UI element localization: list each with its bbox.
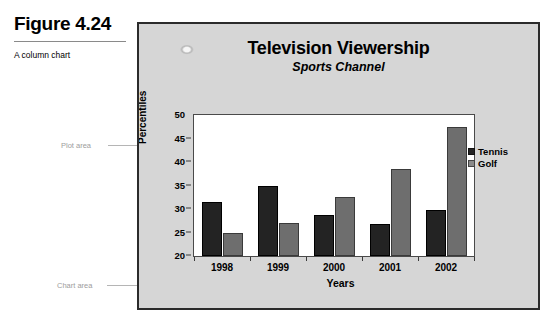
x-axis: 19981999200020012002 [193,260,475,276]
x-axis-tick-mark [194,257,195,261]
x-axis-tick-label: 2000 [323,262,345,273]
legend-item-golf[interactable]: Golf [468,158,508,169]
figure-caption: Figure 4.24 A column chart [14,14,126,60]
x-axis-tick-label: 2001 [379,262,401,273]
figure-number: Figure 4.24 [14,14,126,34]
legend-swatch-icon [468,148,475,155]
chart-title: Television Viewership [139,38,538,59]
callout-chart-area: Chart area [57,281,92,290]
y-axis-tick-mark [186,161,191,162]
plot-bars-container [194,115,474,256]
bar-tennis-1999[interactable] [258,186,278,257]
x-axis-tick-label: 2002 [435,262,457,273]
bar-tennis-1998[interactable] [202,202,222,256]
legend-item-tennis[interactable]: Tennis [468,146,508,157]
y-axis-tick-mark [186,208,191,209]
y-axis-tick-label: 40 [174,156,185,167]
chart-area[interactable]: Television Viewership Sports Channel Per… [137,22,540,310]
legend-label: Tennis [478,146,508,157]
x-axis-tick-mark [474,257,475,261]
y-axis-tick-mark [186,255,191,256]
bar-tennis-2002[interactable] [426,210,446,256]
x-axis-tick-label: 1999 [267,262,289,273]
x-axis-title: Years [139,277,540,289]
y-axis-tick-mark [186,231,191,232]
y-axis-tick-mark [186,184,191,185]
y-axis-tick-label: 35 [174,179,185,190]
bar-tennis-2000[interactable] [314,215,334,256]
y-axis: 20253035404550 [157,108,191,263]
y-axis-tick-mark [186,137,191,138]
legend-label: Golf [478,158,497,169]
x-axis-tick-mark [306,257,307,261]
legend-swatch-icon [468,160,475,167]
x-axis-tick-mark [362,257,363,261]
chart-subtitle: Sports Channel [139,60,538,74]
callout-plot-area: Plot area [61,141,91,150]
x-axis-tick-label: 1998 [211,262,233,273]
plot-area[interactable] [193,114,475,257]
y-axis-tick-label: 45 [174,132,185,143]
caption-divider [14,41,126,42]
bar-golf-1999[interactable] [279,223,299,256]
figure-description: A column chart [14,50,126,60]
y-axis-tick-label: 50 [174,109,185,120]
bar-golf-2000[interactable] [335,197,355,256]
y-axis-tick-label: 30 [174,203,185,214]
x-axis-tick-mark [418,257,419,261]
bar-tennis-2001[interactable] [370,224,390,256]
chart-legend[interactable]: TennisGolf [464,142,513,174]
y-axis-title: Percentiles [137,91,148,144]
bar-golf-2001[interactable] [391,169,411,256]
y-axis-tick-label: 20 [174,250,185,261]
x-axis-tick-mark [250,257,251,261]
y-axis-tick-label: 25 [174,226,185,237]
bar-golf-1998[interactable] [223,233,243,257]
